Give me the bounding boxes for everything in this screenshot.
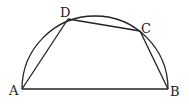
label-d: D bbox=[60, 5, 70, 20]
label-c: C bbox=[141, 21, 151, 36]
label-a: A bbox=[8, 83, 19, 98]
segment-bc bbox=[140, 31, 168, 89]
segment-da bbox=[22, 19, 68, 89]
label-b: B bbox=[170, 84, 180, 99]
geometry-diagram: A B C D bbox=[0, 0, 189, 108]
